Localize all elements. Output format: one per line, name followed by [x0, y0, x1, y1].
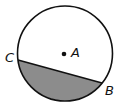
circle-diagram: A C B: [0, 0, 118, 106]
label-c: C: [5, 50, 15, 65]
center-point-a: [62, 52, 67, 57]
label-b: B: [105, 83, 114, 98]
label-a: A: [70, 45, 80, 60]
